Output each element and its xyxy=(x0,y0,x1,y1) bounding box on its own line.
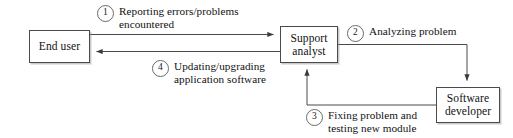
step-label-3: 3 Fixing problem and testing new module xyxy=(306,109,441,135)
step-number-4: 4 xyxy=(152,60,169,77)
node-end-user: End user xyxy=(29,30,90,63)
step-label-4: 4 Updating/upgrading application softwar… xyxy=(152,60,287,86)
node-support-analyst-label: Support analyst xyxy=(290,32,327,58)
step-number-3: 3 xyxy=(306,109,323,126)
step-text-4: Updating/upgrading application software xyxy=(174,60,287,86)
step-text-1: Reporting errors/problems encountered xyxy=(119,5,265,31)
node-end-user-label: End user xyxy=(39,40,80,53)
step-label-1: 1 Reporting errors/problems encountered xyxy=(97,5,265,31)
step-text-2: Analyzing problem xyxy=(369,25,472,38)
step-number-2: 2 xyxy=(347,25,364,42)
node-software-developer: Software developer xyxy=(436,87,500,123)
step-number-1: 1 xyxy=(97,5,114,22)
node-support-analyst: Support analyst xyxy=(280,26,338,63)
connector-step-2 xyxy=(338,45,467,81)
connector-step-3 xyxy=(307,70,436,106)
node-software-developer-label: Software developer xyxy=(445,92,491,118)
process-diagram: End user Support analyst Software develo… xyxy=(0,0,513,138)
step-label-2: 2 Analyzing problem xyxy=(347,25,472,42)
step-text-3: Fixing problem and testing new module xyxy=(328,109,441,135)
